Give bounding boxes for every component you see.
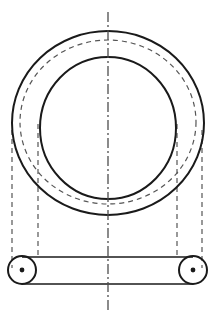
left-boss-center-dot: [20, 268, 25, 273]
drawing-svg: [0, 0, 214, 327]
right-boss-center-dot: [191, 268, 196, 273]
technical-drawing-canvas: [0, 0, 214, 327]
